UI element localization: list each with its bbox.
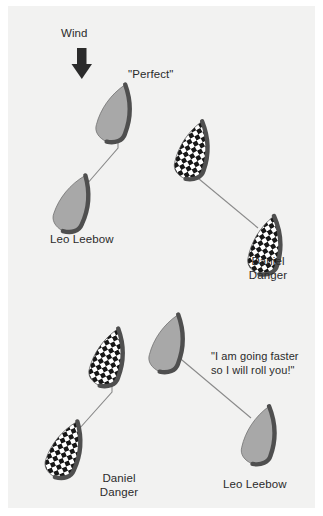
label-top-leo-leebow: Leo Leebow [50,233,114,247]
boat-top-daniel-leading [171,117,217,183]
wind-arrow-icon [72,48,93,79]
boat-bottom-daniel-trailing [41,416,92,483]
boat-top-leo-trailing [49,170,100,237]
boat-top-leo-leading [92,80,139,146]
label-bottom-daniel-line1: Daniel [89,472,149,486]
label-top-daniel-line1: Daniel [240,255,296,269]
label-bottom-daniel-line2: Danger [89,486,149,500]
wind-label: Wind [61,27,88,41]
label-bottom-leo-leebow: Leo Leebow [223,478,287,492]
top-daniel-tiller-line [193,174,258,228]
speech-line-1: "I am going faster [211,350,299,364]
boat-bottom-leo-trailing [238,402,284,468]
label-top-daniel-line2: Danger [240,269,296,283]
diagram-canvas: Wind "Perfect" Leo Leebow Daniel Danger … [8,6,315,508]
boat-bottom-leo-leading [145,310,192,376]
figure-page: Wind "Perfect" Leo Leebow Daniel Danger … [0,0,323,516]
perfect-callout: "Perfect" [128,68,174,82]
boat-bottom-daniel-leading [85,324,132,390]
speech-line-2: so I will roll you!" [211,364,295,378]
